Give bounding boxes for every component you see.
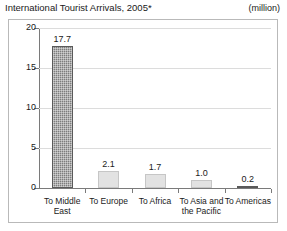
chart-frame: 0510152017.7To Middle East2.1To Europe1.… (8, 19, 278, 223)
bar-value-label: 2.1 (102, 159, 115, 170)
gridline (39, 148, 271, 149)
bar-value-label: 1.7 (149, 162, 162, 173)
x-axis-tick (178, 189, 179, 193)
gridline (39, 68, 271, 69)
bar-value-label: 1.0 (195, 168, 208, 179)
bar: 0.2 (237, 186, 258, 188)
gridline (39, 108, 271, 109)
y-axis-tick-label: 20 (26, 22, 36, 33)
bar: 17.7 (52, 46, 73, 188)
chart-header: International Tourist Arrivals, 2005* (m… (0, 0, 287, 20)
x-axis-category-label: To Americas (225, 196, 271, 206)
unit-label: (million) (249, 2, 281, 14)
x-axis-tick (132, 189, 133, 193)
page-title: International Tourist Arrivals, 2005* (5, 2, 152, 14)
y-axis-tick-label: 0 (31, 182, 36, 193)
bar: 2.1 (98, 171, 119, 188)
x-axis-category-label: To Africa (132, 196, 178, 206)
bar: 1.7 (145, 174, 166, 188)
gridline (39, 28, 271, 29)
bar-value-label: 0.2 (242, 174, 255, 185)
y-axis-tick-label: 5 (31, 142, 36, 153)
x-axis-category-label: To Asia and the Pacific (178, 196, 224, 216)
x-axis-tick (85, 189, 86, 193)
x-axis-tick (271, 189, 272, 193)
x-axis-tick (225, 189, 226, 193)
y-axis-tick-label: 15 (26, 62, 36, 73)
x-axis-category-label: To Middle East (39, 196, 85, 216)
y-axis-tick-label: 10 (26, 102, 36, 113)
bar-value-label: 17.7 (53, 34, 71, 45)
tourist-arrivals-chart: International Tourist Arrivals, 2005* (m… (0, 0, 287, 231)
x-axis-category-label: To Europe (85, 196, 131, 206)
plot-area: 0510152017.7To Middle East2.1To Europe1.… (9, 20, 277, 222)
x-axis-line (39, 188, 271, 189)
bar: 1.0 (191, 180, 212, 188)
